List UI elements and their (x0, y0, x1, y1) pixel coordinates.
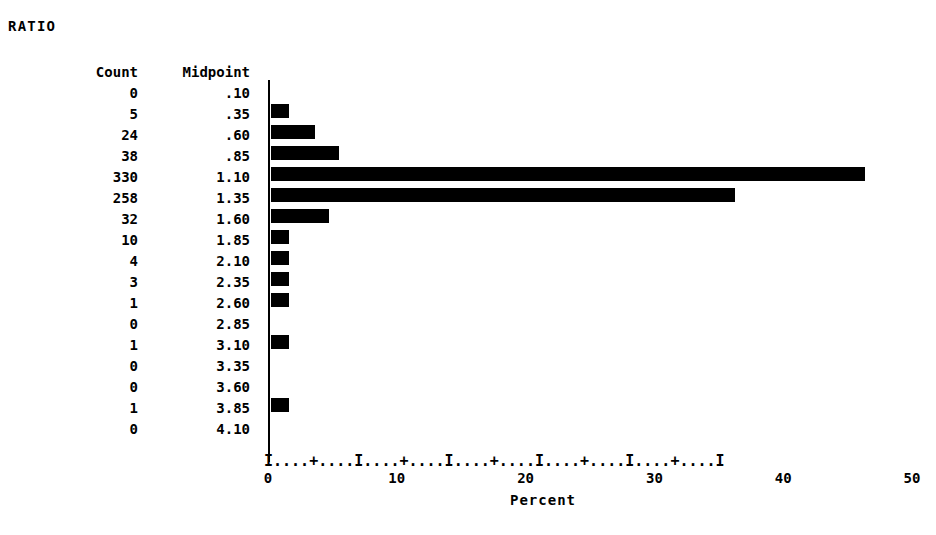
table-body: 0.105.3524.6038.853301.102581.35321.6010… (0, 83, 260, 440)
bar (271, 230, 289, 244)
table-row: 04.10 (0, 419, 260, 440)
bar-series (271, 80, 921, 437)
table-header-row: Count Midpoint (0, 62, 260, 83)
x-tick-label: 0 (264, 470, 272, 486)
bar (271, 293, 289, 307)
bar (271, 398, 289, 412)
cell-count: 0 (0, 83, 138, 104)
cell-midpoint: 2.60 (138, 293, 250, 314)
cell-midpoint: 1.10 (138, 167, 250, 188)
bar-slot (271, 227, 921, 248)
bar-slot (271, 416, 921, 437)
column-header-count: Count (0, 62, 138, 83)
cell-midpoint: 1.60 (138, 209, 250, 230)
bar-slot (271, 332, 921, 353)
table-row: 321.60 (0, 209, 260, 230)
cell-midpoint: 2.35 (138, 272, 250, 293)
cell-count: 258 (0, 188, 138, 209)
frequency-table: Count Midpoint 0.105.3524.6038.853301.10… (0, 62, 260, 440)
bar-slot (271, 122, 921, 143)
cell-midpoint: 1.85 (138, 230, 250, 251)
column-header-midpoint: Midpoint (138, 62, 250, 83)
bar-slot (271, 290, 921, 311)
cell-count: 0 (0, 356, 138, 377)
bar (271, 335, 289, 349)
table-row: 0.10 (0, 83, 260, 104)
cell-midpoint: .60 (138, 125, 250, 146)
bar (271, 251, 289, 265)
table-row: 42.10 (0, 251, 260, 272)
cell-midpoint: 2.85 (138, 314, 250, 335)
cell-count: 0 (0, 377, 138, 398)
cell-count: 32 (0, 209, 138, 230)
cell-midpoint: .85 (138, 146, 250, 167)
cell-count: 1 (0, 293, 138, 314)
cell-count: 3 (0, 272, 138, 293)
table-row: 12.60 (0, 293, 260, 314)
x-axis-tick-labels: 01020304050 (264, 470, 936, 488)
table-row: 38.85 (0, 146, 260, 167)
cell-count: 4 (0, 251, 138, 272)
bar-slot (271, 374, 921, 395)
bar-slot (271, 248, 921, 269)
x-tick-label: 30 (646, 470, 663, 486)
table-row: 2581.35 (0, 188, 260, 209)
cell-count: 24 (0, 125, 138, 146)
x-tick-label: 40 (775, 470, 792, 486)
bar (271, 104, 289, 118)
cell-midpoint: 1.35 (138, 188, 250, 209)
page-title: RATIO (8, 18, 56, 34)
bar (271, 188, 735, 202)
x-axis-label: Percent (0, 492, 936, 508)
table-row: 13.10 (0, 335, 260, 356)
cell-midpoint: 3.35 (138, 356, 250, 377)
cell-midpoint: 4.10 (138, 419, 250, 440)
bar-slot (271, 164, 921, 185)
bar-slot (271, 206, 921, 227)
bar-slot (271, 80, 921, 101)
bar-slot (271, 185, 921, 206)
x-tick-label: 20 (517, 470, 534, 486)
cell-midpoint: 3.60 (138, 377, 250, 398)
table-row: 13.85 (0, 398, 260, 419)
bar-slot (271, 353, 921, 374)
bar (271, 125, 315, 139)
table-row: 101.85 (0, 230, 260, 251)
x-tick-label: 50 (904, 470, 921, 486)
table-row: 24.60 (0, 125, 260, 146)
x-tick-label: 10 (388, 470, 405, 486)
histogram-printout: RATIO Count Midpoint 0.105.3524.6038.853… (0, 0, 936, 535)
y-axis-line (268, 80, 270, 462)
bar (271, 209, 329, 223)
cell-midpoint: .10 (138, 83, 250, 104)
table-row: 3301.10 (0, 167, 260, 188)
bar-slot (271, 143, 921, 164)
cell-count: 0 (0, 419, 138, 440)
cell-count: 1 (0, 335, 138, 356)
table-row: 02.85 (0, 314, 260, 335)
table-row: 03.35 (0, 356, 260, 377)
cell-count: 38 (0, 146, 138, 167)
bar-slot (271, 101, 921, 122)
bar (271, 146, 339, 160)
cell-count: 330 (0, 167, 138, 188)
cell-midpoint: 3.85 (138, 398, 250, 419)
bar-slot (271, 311, 921, 332)
cell-midpoint: 3.10 (138, 335, 250, 356)
cell-count: 1 (0, 398, 138, 419)
bar (271, 167, 865, 181)
table-row: 32.35 (0, 272, 260, 293)
cell-count: 10 (0, 230, 138, 251)
cell-midpoint: 2.10 (138, 251, 250, 272)
x-axis-ascii-ruler: I....+....I....+....I....+....I....+....… (264, 452, 725, 470)
cell-count: 0 (0, 314, 138, 335)
bar-slot (271, 269, 921, 290)
cell-midpoint: .35 (138, 104, 250, 125)
table-row: 03.60 (0, 377, 260, 398)
table-row: 5.35 (0, 104, 260, 125)
bar-slot (271, 395, 921, 416)
cell-count: 5 (0, 104, 138, 125)
bar (271, 272, 289, 286)
plot-area (268, 62, 928, 462)
